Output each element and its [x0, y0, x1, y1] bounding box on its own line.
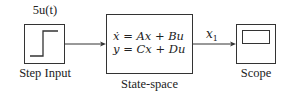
wire-statespace-to-scope [193, 42, 236, 47]
wire-step-to-statespace [65, 42, 106, 47]
signal-wires [0, 0, 288, 95]
